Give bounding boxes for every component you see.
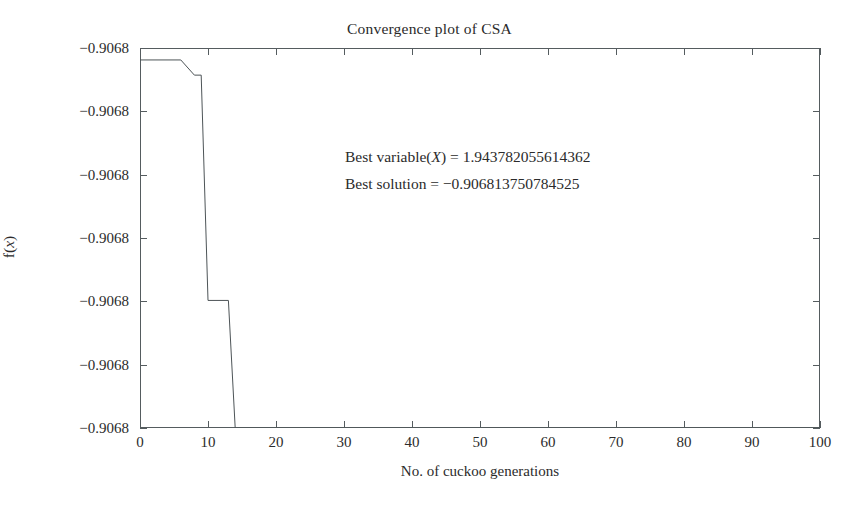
annotation-block: Best variable(X) = 1.943782055614362Best… bbox=[345, 148, 591, 202]
x-tick-label-3: 30 bbox=[337, 434, 352, 451]
annotation-value: −0.906813750784525 bbox=[443, 175, 580, 192]
figure-canvas: Convergence plot of CSA f(x) No. of cuck… bbox=[0, 0, 859, 512]
x-tick-label-1: 10 bbox=[201, 434, 216, 451]
y-tick-mark-6 bbox=[140, 428, 147, 429]
x-tick-label-0: 0 bbox=[136, 434, 144, 451]
series-plot bbox=[140, 48, 820, 428]
annotation-best-solution: Best solution = −0.906813750784525 bbox=[345, 175, 591, 193]
annotation-prefix: Best variable( bbox=[345, 148, 432, 165]
y-axis-title-f: f bbox=[0, 253, 17, 258]
y-tick-label-2: −0.9068 bbox=[79, 167, 129, 184]
y-tick-label-6: −0.9068 bbox=[79, 420, 129, 437]
x-tick-label-7: 70 bbox=[609, 434, 624, 451]
y-tick-mark-6-right bbox=[813, 428, 820, 429]
x-tick-label-6: 60 bbox=[541, 434, 556, 451]
y-axis-title-open: ( bbox=[0, 248, 17, 253]
annotation-variable: X bbox=[432, 148, 441, 165]
annotation-prefix: Best solution = bbox=[345, 175, 443, 192]
x-tick-label-8: 80 bbox=[677, 434, 692, 451]
y-axis-title: f(x) bbox=[0, 236, 18, 258]
y-axis-title-var: x bbox=[0, 241, 17, 248]
x-tick-label-9: 90 bbox=[745, 434, 760, 451]
x-tick-mark-10 bbox=[820, 421, 821, 428]
x-tick-mark-10-top bbox=[820, 48, 821, 55]
x-tick-label-4: 40 bbox=[405, 434, 420, 451]
x-axis-title: No. of cuckoo generations bbox=[140, 463, 820, 480]
y-axis-title-close: ) bbox=[0, 236, 17, 241]
y-tick-label-3: −0.9068 bbox=[79, 230, 129, 247]
x-tick-label-10: 100 bbox=[809, 434, 832, 451]
x-tick-label-5: 50 bbox=[473, 434, 488, 451]
chart-title: Convergence plot of CSA bbox=[0, 20, 859, 38]
y-tick-label-4: −0.9068 bbox=[79, 293, 129, 310]
convergence-line bbox=[140, 60, 820, 428]
x-tick-label-2: 20 bbox=[269, 434, 284, 451]
y-tick-label-0: −0.9068 bbox=[79, 40, 129, 57]
annotation-best-variable: Best variable(X) = 1.943782055614362 bbox=[345, 148, 591, 166]
annotation-value: ) = 1.943782055614362 bbox=[441, 148, 591, 165]
plot-area bbox=[140, 48, 820, 428]
y-tick-label-5: −0.9068 bbox=[79, 357, 129, 374]
y-tick-label-1: −0.9068 bbox=[79, 103, 129, 120]
